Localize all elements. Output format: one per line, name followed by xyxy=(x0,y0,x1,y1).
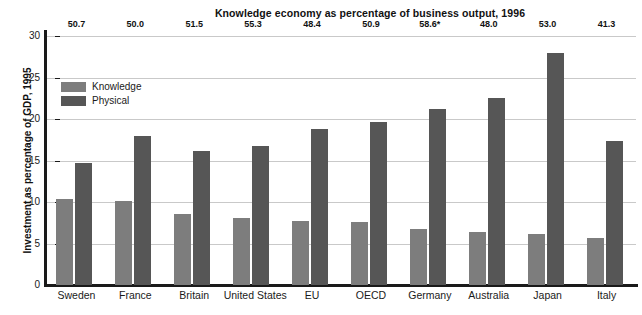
y-axis-tick-label: 5 xyxy=(18,238,40,249)
bar-knowledge-japan xyxy=(528,234,545,285)
x-axis-label-oecd: OECD xyxy=(342,289,401,301)
bar-knowledge-france xyxy=(115,201,132,285)
y-axis-tick-label: 25 xyxy=(18,72,40,83)
top-value-label: 48.0 xyxy=(459,19,518,29)
legend-item-physical: Physical xyxy=(61,95,141,106)
x-axis-label-britain: Britain xyxy=(165,289,224,301)
top-value-label: 41.3 xyxy=(577,19,636,29)
bar-physical-italy xyxy=(606,141,623,285)
bar-knowledge-germany xyxy=(410,229,427,285)
x-axis-label-australia: Australia xyxy=(459,289,518,301)
bar-physical-australia xyxy=(488,98,505,285)
top-value-label: 58.6* xyxy=(400,19,459,29)
bar-knowledge-britain xyxy=(174,214,191,285)
bar-physical-germany xyxy=(429,109,446,285)
top-value-label: 50.0 xyxy=(106,19,165,29)
x-axis-label-sweden: Sweden xyxy=(47,289,106,301)
legend-label: Knowledge xyxy=(92,81,141,92)
bar-knowledge-australia xyxy=(469,232,486,285)
y-axis-tick-labels: 051015202530 xyxy=(14,36,40,285)
bar-knowledge-sweden xyxy=(56,199,73,285)
bar-physical-japan xyxy=(547,53,564,285)
bar-physical-oecd xyxy=(370,122,387,286)
top-value-row: 50.750.051.555.348.450.958.6*48.053.041.… xyxy=(47,19,636,33)
x-axis-category-labels: SwedenFranceBritainUnited StatesEUOECDGe… xyxy=(47,289,636,307)
y-axis-tick-label: 30 xyxy=(18,30,40,41)
legend-item-knowledge: Knowledge xyxy=(61,81,141,92)
x-axis-label-united-states: United States xyxy=(224,289,283,301)
bars-layer xyxy=(47,36,636,285)
legend-label: Physical xyxy=(92,95,129,106)
top-value-label: 51.5 xyxy=(165,19,224,29)
x-axis-label-germany: Germany xyxy=(400,289,459,301)
y-axis-tick-mark xyxy=(55,285,60,286)
top-value-label: 48.4 xyxy=(283,19,342,29)
y-axis-tick-label: 0 xyxy=(18,279,40,290)
bar-physical-sweden xyxy=(75,163,92,285)
chart-title: Knowledge economy as percentage of busin… xyxy=(110,7,630,19)
bar-knowledge-italy xyxy=(587,238,604,285)
legend: KnowledgePhysical xyxy=(61,81,141,109)
x-axis-label-france: France xyxy=(106,289,165,301)
bar-physical-united-states xyxy=(252,146,269,285)
legend-swatch-icon xyxy=(61,96,86,106)
y-axis-tick-label: 10 xyxy=(18,196,40,207)
top-value-label: 55.3 xyxy=(224,19,283,29)
bar-physical-france xyxy=(134,136,151,285)
x-axis-label-eu: EU xyxy=(283,289,342,301)
bar-knowledge-oecd xyxy=(351,222,368,285)
legend-swatch-icon xyxy=(61,82,86,92)
top-value-label: 50.9 xyxy=(342,19,401,29)
top-value-label: 53.0 xyxy=(518,19,577,29)
y-axis-tick-label: 20 xyxy=(18,113,40,124)
y-axis-tick-label: 15 xyxy=(18,155,40,166)
bar-knowledge-united-states xyxy=(233,218,250,285)
x-axis-label-italy: Italy xyxy=(577,289,636,301)
top-value-label: 50.7 xyxy=(47,19,106,29)
bar-physical-eu xyxy=(311,129,328,285)
bar-knowledge-eu xyxy=(292,221,309,285)
bar-physical-britain xyxy=(193,151,210,285)
bar-chart: Knowledge economy as percentage of busin… xyxy=(0,0,642,315)
x-axis-label-japan: Japan xyxy=(518,289,577,301)
